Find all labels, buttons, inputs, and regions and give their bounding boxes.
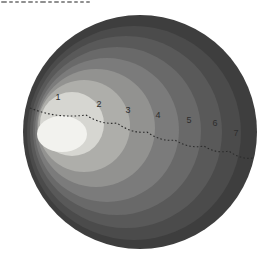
nested-circles-diagram: 1234567 <box>0 0 263 271</box>
zone-label-3: 3 <box>125 105 130 115</box>
zone-label-7: 7 <box>233 128 238 138</box>
zone-label-4: 4 <box>155 110 160 120</box>
zone-label-5: 5 <box>186 115 191 125</box>
bright-core <box>37 116 87 152</box>
zone-label-2: 2 <box>96 99 101 109</box>
zone-label-1: 1 <box>55 92 60 102</box>
zone-label-6: 6 <box>212 118 217 128</box>
figure-canvas: 1234567 <box>0 0 263 271</box>
